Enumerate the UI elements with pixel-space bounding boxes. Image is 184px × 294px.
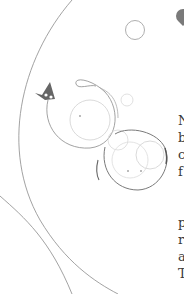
text-line: T: [178, 265, 184, 282]
text-line: c: [178, 146, 184, 163]
large-arc: [19, 0, 118, 294]
text-line: r: [178, 231, 184, 248]
text-line: N: [178, 112, 184, 129]
text-line: f: [178, 163, 184, 180]
text-line: p: [178, 214, 184, 231]
paragraph-2: p r a T: [178, 214, 184, 282]
text-line: a: [178, 248, 184, 265]
small-circle: [126, 21, 145, 40]
lower-arc: [0, 196, 72, 294]
paragraph-1: N b c f: [178, 112, 184, 180]
decorative-swirl-illustration: [0, 0, 184, 294]
text-line: b: [178, 129, 184, 146]
